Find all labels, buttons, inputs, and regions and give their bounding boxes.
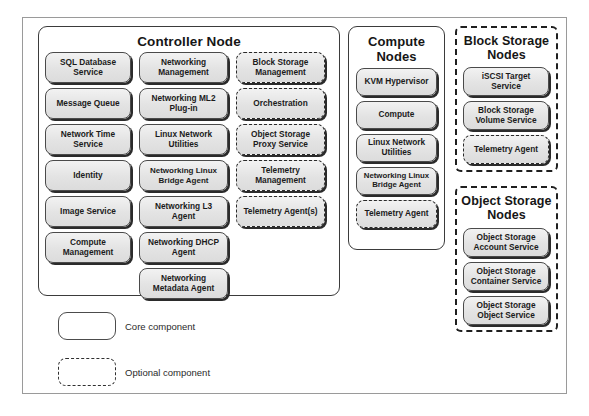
component-telemetry-agents[interactable]: Telemetry Agent(s) xyxy=(236,196,325,227)
component-identity[interactable]: Identity xyxy=(45,160,131,191)
component-networking-l3-agent[interactable]: Networking L3 Agent xyxy=(139,196,228,227)
component-networking-linux-bridge-agent[interactable]: Networking Linux Bridge Agent xyxy=(139,160,228,191)
component-compute[interactable]: Compute xyxy=(356,101,437,129)
group-title-compute-nodes: Compute Nodes xyxy=(349,35,444,64)
component-compute-networking-linux-bridge-agent[interactable]: Networking Linux Bridge Agent xyxy=(356,167,437,195)
component-network-time-service[interactable]: Network Time Service xyxy=(45,124,131,155)
component-compute-linux-network-utilities[interactable]: Linux Network Utilities xyxy=(356,134,437,162)
component-object-storage-proxy-service[interactable]: Object Storage Proxy Service xyxy=(236,124,325,155)
legend-label-core: Core component xyxy=(125,321,195,332)
component-networking-management[interactable]: Networking Management xyxy=(139,52,228,83)
component-object-storage-account-service[interactable]: Object Storage Account Service xyxy=(463,228,549,257)
component-networking-metadata-agent[interactable]: Networking Metadata Agent xyxy=(139,268,228,299)
component-message-queue[interactable]: Message Queue xyxy=(45,88,131,119)
group-title-object-storage-nodes: Object Storage Nodes xyxy=(457,194,556,222)
component-networking-ml2-plugin[interactable]: Networking ML2 Plug-in xyxy=(139,88,228,119)
group-title-block-storage-nodes: Block Storage Nodes xyxy=(457,34,556,62)
group-title-controller-node: Controller Node xyxy=(39,34,339,49)
component-block-storage-telemetry-agent[interactable]: Telemetry Agent xyxy=(463,135,549,164)
component-iscsi-target-service[interactable]: iSCSI Target Service xyxy=(463,67,549,96)
component-block-storage-volume-service[interactable]: Block Storage Volume Service xyxy=(463,101,549,130)
component-compute-management[interactable]: Compute Management xyxy=(45,232,131,263)
component-block-storage-management[interactable]: Block Storage Management xyxy=(236,52,325,83)
component-object-storage-object-service[interactable]: Object Storage Object Service xyxy=(463,296,549,325)
component-sql-database-service[interactable]: SQL Database Service xyxy=(45,52,131,83)
component-object-storage-container-service[interactable]: Object Storage Container Service xyxy=(463,262,549,291)
component-networking-dhcp-agent[interactable]: Networking DHCP Agent xyxy=(139,232,228,263)
component-linux-network-utilities[interactable]: Linux Network Utilities xyxy=(139,124,228,155)
component-orchestration[interactable]: Orchestration xyxy=(236,88,325,119)
component-kvm-hypervisor[interactable]: KVM Hypervisor xyxy=(356,68,437,96)
component-telemetry-management[interactable]: Telemetry Management xyxy=(236,160,325,191)
legend-label-optional: Optional component xyxy=(125,367,210,378)
component-compute-telemetry-agent[interactable]: Telemetry Agent xyxy=(356,200,437,228)
architecture-diagram: Controller Node SQL Database Service Mes… xyxy=(0,0,589,416)
legend-swatch-core xyxy=(58,312,116,340)
component-image-service[interactable]: Image Service xyxy=(45,196,131,227)
legend-swatch-optional xyxy=(58,358,116,386)
